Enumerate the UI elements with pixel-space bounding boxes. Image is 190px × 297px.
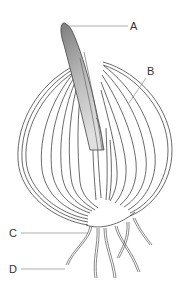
label-c: C — [9, 228, 17, 239]
shoot — [61, 23, 104, 150]
roots — [66, 218, 152, 278]
label-a: A — [130, 21, 137, 32]
leader-b — [129, 78, 146, 103]
label-d: D — [9, 264, 17, 275]
onion-diagram — [0, 0, 190, 297]
base-plate — [86, 212, 135, 227]
label-b: B — [147, 66, 154, 77]
